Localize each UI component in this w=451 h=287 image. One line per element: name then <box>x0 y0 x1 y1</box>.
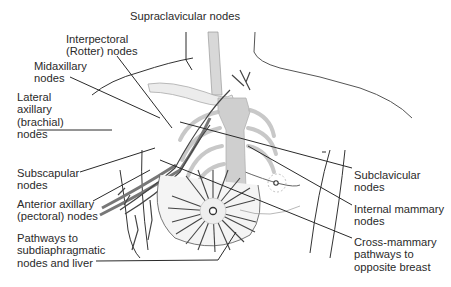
label-interpectoral-nodes: Interpectoral (Rotter) nodes <box>66 33 138 58</box>
breast-lymphatics-diagram: Supraclavicular nodes Interpectoral (Rot… <box>0 0 451 287</box>
nipple <box>210 208 217 215</box>
label-anterior-axillary-nodes: Anterior axillary (pectoral) nodes <box>17 198 98 223</box>
label-internal-mammary-nodes: Internal mammary nodes <box>354 203 444 228</box>
label-midaxillary-nodes: Midaxillary nodes <box>34 60 87 85</box>
label-lateral-axillary-nodes: Lateral axillary (brachial) nodes <box>17 91 64 141</box>
label-subscapular-nodes: Subscapular nodes <box>17 167 79 192</box>
label-supraclavicular-nodes: Supraclavicular nodes <box>130 10 240 22</box>
neck-structures <box>208 32 222 95</box>
label-pathways-subdiaphragmatic: Pathways to subdiaphragmatic nodes and l… <box>17 232 105 269</box>
label-cross-mammary-pathways: Cross-mammary pathways to opposite breas… <box>354 236 437 273</box>
sternum <box>218 98 250 190</box>
label-subclavicular-nodes: Subclavicular nodes <box>354 169 421 194</box>
